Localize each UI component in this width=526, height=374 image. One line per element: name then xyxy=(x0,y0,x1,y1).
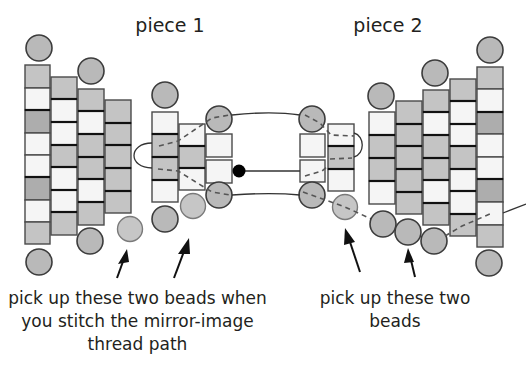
left-caption-line-3: thread path xyxy=(0,333,275,356)
right-caption-line-1: pick up these two xyxy=(300,287,490,310)
left-caption-line-2: you stitch the mirror-image xyxy=(0,310,275,333)
piece-1-join-section xyxy=(134,82,232,232)
right-caption: pick up these two beads xyxy=(300,287,490,333)
piece-1-columns xyxy=(25,65,131,244)
beadwork-diagram: piece 1 piece 2 .g { fill: #c4c4c4; stro… xyxy=(0,0,526,374)
thread-knot xyxy=(233,165,246,178)
left-caption-line-1: pick up these two beads when xyxy=(0,287,275,310)
arrow-icon xyxy=(344,228,355,245)
arrow-icon xyxy=(178,238,190,254)
left-caption: pick up these two beads when you stitch … xyxy=(0,287,275,356)
connecting-threads xyxy=(232,113,300,195)
right-caption-line-2: beads xyxy=(300,310,490,333)
piece-2-columns xyxy=(368,37,526,276)
arrows xyxy=(117,228,415,278)
arrow-icon xyxy=(404,248,414,263)
arrow-icon xyxy=(118,249,129,264)
